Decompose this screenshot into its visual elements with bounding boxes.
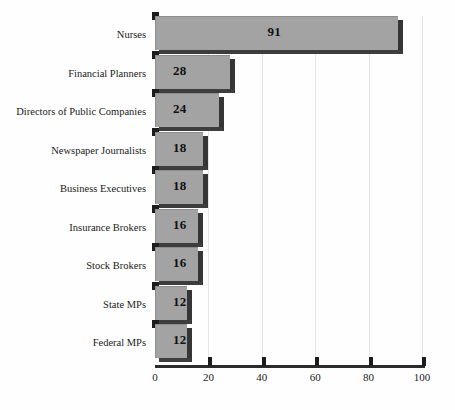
gridline — [422, 16, 423, 366]
bar-bottom-face — [159, 89, 234, 93]
bar-value-label: 16 — [173, 217, 186, 233]
x-axis-tick-labels: 020406080100 — [155, 371, 427, 395]
bar-value-label: 16 — [173, 255, 186, 271]
bar-side-face — [203, 174, 208, 208]
bar-bottom-face — [159, 358, 191, 362]
x-axis-tick-label: 100 — [414, 371, 431, 383]
bar: 16 — [155, 209, 204, 247]
bar-value-label: 18 — [173, 140, 186, 156]
bar-side-face — [203, 136, 208, 170]
bar-value-label: 18 — [173, 178, 186, 194]
bar-side-face — [398, 20, 403, 54]
bar-bottom-face — [159, 50, 402, 54]
bar-value-label: 24 — [173, 101, 186, 117]
bar-side-face — [219, 97, 224, 131]
bar: 18 — [155, 170, 209, 208]
bar-side-face — [198, 213, 203, 247]
category-label: State MPs — [103, 286, 146, 324]
gridline — [369, 16, 370, 366]
y-axis-labels: NursesFinancial PlannersDirectors of Pub… — [0, 16, 150, 366]
category-label: Directors of Public Companies — [16, 93, 146, 131]
x-axis-tick — [369, 357, 373, 366]
x-axis-line — [155, 365, 425, 368]
gridline — [262, 16, 263, 366]
category-label: Nurses — [117, 16, 146, 54]
x-axis-tick — [262, 357, 266, 366]
category-label: Stock Brokers — [86, 247, 146, 285]
bar-value-label: 12 — [173, 294, 186, 310]
bar: 91 — [155, 16, 404, 54]
bar: 12 — [155, 324, 193, 362]
bar: 16 — [155, 247, 204, 285]
x-axis-tick — [422, 357, 426, 366]
bar: 18 — [155, 132, 209, 170]
category-label: Federal MPs — [93, 324, 146, 362]
bar-bottom-face — [159, 127, 223, 131]
bar-bottom-face — [159, 204, 207, 208]
bar-side-face — [230, 59, 235, 93]
bar-value-label: 12 — [173, 332, 186, 348]
x-axis-tick-label: 20 — [203, 371, 214, 383]
bar-side-face — [187, 290, 192, 324]
gridline — [315, 16, 316, 366]
bar-bottom-face — [159, 320, 191, 324]
bar-bottom-face — [159, 281, 202, 285]
category-label: Financial Planners — [68, 55, 146, 93]
x-axis-tick-label: 0 — [152, 371, 158, 383]
category-label: Insurance Brokers — [69, 209, 146, 247]
bar-value-label: 28 — [173, 63, 186, 79]
bar-front-face — [155, 55, 230, 89]
x-axis-tick — [208, 357, 212, 366]
plot-area: 912824181816161212 — [155, 16, 422, 366]
bar-side-face — [198, 251, 203, 285]
bar: 28 — [155, 55, 236, 93]
category-label: Newspaper Journalists — [51, 132, 146, 170]
bar-bottom-face — [159, 243, 202, 247]
bar-bottom-face — [159, 166, 207, 170]
x-axis-tick-label: 60 — [310, 371, 321, 383]
bar: 24 — [155, 93, 225, 131]
bar: 12 — [155, 286, 193, 324]
bar-side-face — [187, 328, 192, 362]
bar-front-face — [155, 93, 219, 127]
x-axis-tick — [315, 357, 319, 366]
x-axis-tick-label: 80 — [363, 371, 374, 383]
x-axis-tick-label: 40 — [256, 371, 267, 383]
bar-value-label: 91 — [267, 24, 280, 40]
bar-chart: NursesFinancial PlannersDirectors of Pub… — [0, 0, 455, 410]
category-label: Business Executives — [60, 170, 146, 208]
